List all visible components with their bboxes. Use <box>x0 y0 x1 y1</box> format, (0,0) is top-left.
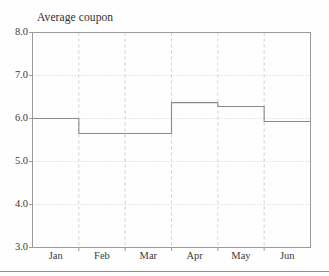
chart-figure: Average coupon 3.04.05.06.07.08.0 JanFeb… <box>0 0 329 276</box>
plot-area <box>0 0 329 276</box>
x-tick-label: Mar <box>125 250 171 261</box>
x-tick-label: May <box>218 250 264 261</box>
y-tick-label: 7.0 <box>2 69 28 80</box>
y-tick-label: 4.0 <box>2 198 28 209</box>
axis-tick-marks <box>29 33 264 252</box>
footer-rule <box>0 271 329 272</box>
x-tick-label: Jan <box>33 250 79 261</box>
x-tick-label: Apr <box>172 250 218 261</box>
y-tick-label: 6.0 <box>2 112 28 123</box>
vertical-gridlines <box>79 33 264 248</box>
series-line-average-coupon <box>33 103 311 134</box>
y-tick-label: 3.0 <box>2 241 28 252</box>
y-tick-label: 5.0 <box>2 155 28 166</box>
y-tick-label: 8.0 <box>2 26 28 37</box>
x-tick-label: Jun <box>264 250 310 261</box>
x-tick-label: Feb <box>79 250 125 261</box>
